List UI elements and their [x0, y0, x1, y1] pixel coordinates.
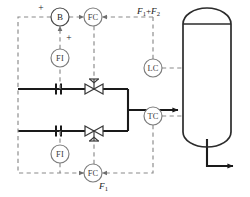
signal-tc-to-fc-bottom: [102, 125, 153, 173]
flow-controller-bottom-tag: FC: [88, 169, 99, 178]
control-valve-top[interactable]: [85, 79, 103, 94]
control-valve-bottom[interactable]: [85, 126, 103, 141]
pid-diagram-root: B FC FI FI FC LC TC + +: [0, 0, 250, 197]
temperature-controller-tag: TC: [147, 112, 158, 121]
flow-element-group: [56, 84, 61, 137]
bottoms-outlet-pipe: [207, 139, 233, 166]
flow-indicator-top[interactable]: FI: [51, 49, 69, 67]
flow-indicator-bottom[interactable]: FI: [51, 145, 69, 163]
process-piping-group: [18, 89, 233, 166]
primary-flow-sub: 1: [105, 185, 108, 192]
signal-summer-feedback-bus: [18, 17, 84, 173]
pid-canvas: B FC FI FI FC LC TC + +: [0, 0, 250, 197]
summer-input-plus-sign: +: [38, 3, 43, 13]
level-controller[interactable]: LC: [144, 59, 162, 77]
flow-controller-bottom[interactable]: FC: [84, 164, 102, 182]
total-flow-sub2: 2: [157, 10, 160, 17]
distillation-column: [183, 8, 231, 147]
primary-flow-label: F1: [98, 181, 108, 192]
flow-indicator-bottom-tag: FI: [56, 150, 64, 159]
flow-controller-top-tag: FC: [88, 13, 99, 22]
summing-block-tag: B: [57, 12, 63, 22]
summer-feedback-plus-sign: +: [66, 33, 71, 43]
temperature-controller[interactable]: TC: [144, 107, 162, 125]
total-flow-label: F1+F2: [136, 6, 160, 17]
signal-line-group: [18, 17, 183, 173]
flow-indicator-top-tag: FI: [56, 54, 64, 63]
level-controller-tag: LC: [147, 64, 158, 73]
summing-block[interactable]: B: [51, 8, 69, 26]
control-valve-group: [85, 79, 103, 141]
flow-controller-top[interactable]: FC: [84, 8, 102, 26]
